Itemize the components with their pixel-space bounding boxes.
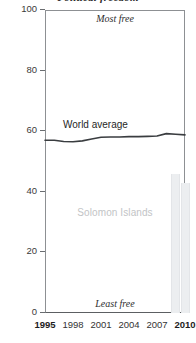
x-axis-tick: 2010: [174, 314, 195, 330]
x-axis-tick: 2001: [90, 314, 111, 330]
x-axis-tick: 1998: [62, 314, 83, 330]
x-axis-tick-label: 2001: [90, 319, 111, 330]
x-axis-tick-label: 2010: [174, 319, 195, 330]
x-axis-tick: 2004: [118, 314, 139, 330]
y-axis-tick-label: 60: [26, 124, 37, 135]
x-axis-tick-label: 1995: [34, 319, 55, 330]
x-axis-tick: 2007: [146, 314, 167, 330]
x-axis-tick-label: 2004: [118, 319, 139, 330]
annotation-least-free: Least free: [45, 298, 185, 309]
annotation-world-average-label: World average: [63, 119, 128, 130]
x-axis-tick-label: 2007: [146, 319, 167, 330]
annotation-most-free: Most free: [45, 13, 185, 24]
political-freedom-chart: Political freedom 020406080100 199519982…: [0, 0, 196, 343]
line-series-world-average: [45, 10, 185, 313]
annotation-solomon-islands: Solomon Islands: [45, 207, 185, 218]
y-axis-tick-label: 40: [26, 185, 37, 196]
x-axis-tick-label: 1998: [62, 319, 83, 330]
y-axis-tick-label: 80: [26, 64, 37, 75]
y-axis-tick-label: 100: [21, 3, 37, 14]
x-axis-tick: 1995: [34, 314, 55, 330]
y-axis-tick-label: 20: [26, 245, 37, 256]
